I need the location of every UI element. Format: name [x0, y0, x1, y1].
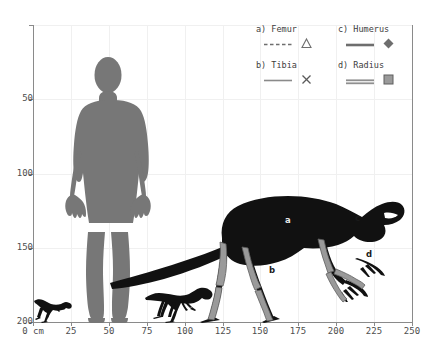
legend-label-femur: a) Femur: [256, 24, 328, 35]
bone-label-b: b: [269, 265, 275, 275]
legend-sample-humerus: [338, 37, 410, 51]
bone-label-d: d: [366, 249, 372, 259]
legend-entry-radius[interactable]: d) Radius: [338, 60, 410, 92]
axis-spine-left: [33, 25, 34, 323]
legend-line-dashed: [264, 43, 292, 46]
legend-entry-humerus[interactable]: c) Humerus: [338, 24, 410, 56]
x-tick-label: 250: [392, 326, 432, 336]
x-tick-label: 100: [165, 326, 205, 336]
legend-line-double: [346, 79, 374, 85]
bone-label-a: a: [285, 215, 291, 225]
legend-label-humerus: c) Humerus: [338, 24, 410, 35]
y-tick-label: 200: [7, 317, 33, 326]
legend-marker-triangle: [300, 37, 313, 50]
y-tick-label: 50: [7, 94, 33, 103]
legend-label-tibia: b) Tibia: [256, 60, 328, 71]
legend: a) Femur b) Tibia: [256, 24, 406, 96]
x-tick-label: 175: [278, 326, 318, 336]
legend-line-thick: [346, 43, 374, 47]
x-tick-label: 125: [203, 326, 243, 336]
legend-marker-x: [300, 73, 313, 86]
bone-tibia-near: [208, 287, 222, 320]
y-tick-label: 100: [7, 169, 33, 178]
y-tick-mark: [29, 25, 33, 26]
legend-entry-tibia[interactable]: b) Tibia: [256, 60, 328, 92]
legend-marker-square: [382, 73, 395, 86]
dinosaur-silhouette-small: [32, 292, 74, 323]
x-tick-label: 75: [127, 326, 167, 336]
bone-femur-near: [216, 242, 227, 286]
legend-label-radius: d) Radius: [338, 60, 410, 71]
dinosaur-silhouette-large: [110, 168, 406, 323]
legend-entry-femur[interactable]: a) Femur: [256, 24, 328, 56]
axis-spine-right: [412, 25, 413, 323]
legend-line-solid: [264, 79, 292, 82]
x-tick-label: 50: [89, 326, 129, 336]
legend-sample-radius: [338, 73, 410, 87]
x-tick-label: 200: [316, 326, 356, 336]
legend-marker-diamond: [382, 37, 395, 50]
y-tick-label: 150: [7, 243, 33, 252]
size-comparison-figure: 20015010050 0 cm255075100125150175200225…: [0, 0, 434, 355]
x-tick-label: 25: [51, 326, 91, 336]
legend-sample-tibia: [256, 73, 328, 87]
x-tick-label: 0 cm: [13, 326, 53, 336]
bone-label-c: c: [355, 213, 360, 223]
legend-sample-femur: [256, 37, 328, 51]
x-tick-label: 150: [240, 326, 280, 336]
x-tick-label: 225: [354, 326, 394, 336]
